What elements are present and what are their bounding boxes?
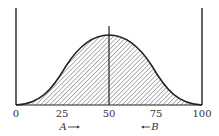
left-arrow-icon: [141, 126, 150, 129]
tick-50: 50: [103, 108, 116, 119]
tick-100: 100: [192, 108, 211, 119]
right-arrow-icon: [68, 126, 80, 129]
tick-75: 75: [150, 108, 163, 119]
label-a: A: [58, 121, 66, 132]
bell-curve-diagram: 0 25 50 75 100 A B: [0, 0, 219, 136]
tick-25: 25: [56, 108, 69, 119]
tick-0: 0: [13, 108, 19, 119]
label-b: B: [150, 121, 158, 132]
